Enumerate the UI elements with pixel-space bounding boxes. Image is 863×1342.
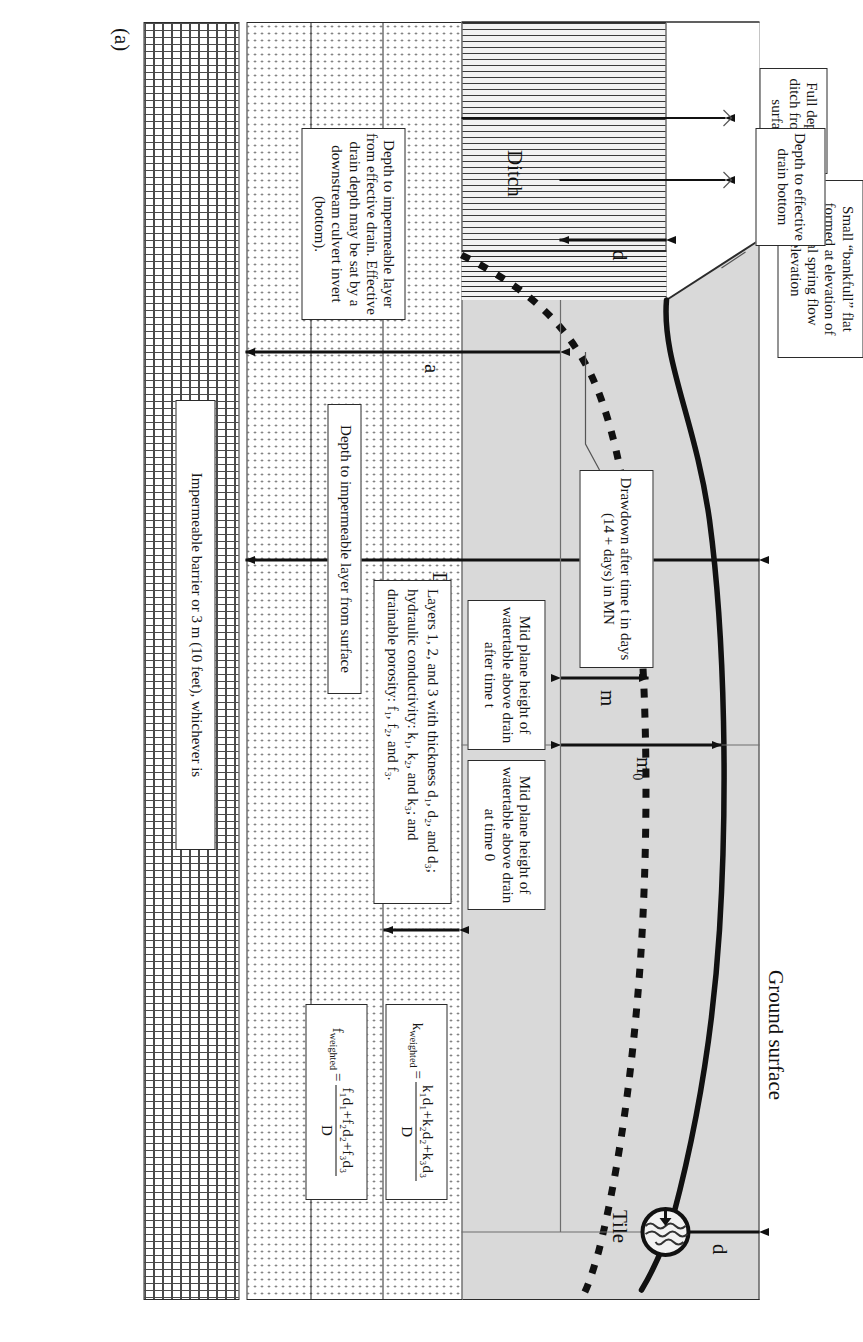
f-weighted-fraction: f₁d₁+f₂d₂+f₃d₃ D (317, 1085, 355, 1177)
callout-depth-imp-drain: Depth to impermeable layer from effectiv… (301, 128, 405, 320)
f-weighted-equals: = (327, 1073, 344, 1081)
d-top-label: d (706, 1244, 731, 1255)
k-weighted-numerator: k₁d₁+k₂d₂+k₃d₃ (416, 1082, 435, 1181)
f-weighted-lhs: fweighted (327, 1028, 345, 1070)
ground-surface-label: Ground surface (762, 970, 787, 1100)
tile-label: Tile (606, 1210, 631, 1243)
callout-depth-effective-drain: Depth to effective drain bottom (755, 128, 825, 246)
d-ditch-label: d (606, 250, 631, 261)
callout-impermeable-barrier: Impermeable barrier or 3 m (10 feet), wh… (175, 400, 215, 850)
f-weighted-denominator: D (317, 1085, 335, 1177)
k-weighted-lhs: kweighted (407, 1023, 425, 1068)
k-weighted-fraction: k₁d₁+k₂d₂+k₃d₃ D (397, 1082, 435, 1181)
callout-drawdown: Drawdown after time t in days (14 + days… (579, 470, 653, 668)
callout-midplane-time-0: Mid plane height of watertable above dra… (467, 760, 545, 910)
f-weighted-numerator: f₁d₁+f₂d₂+f₃d₃ (336, 1085, 355, 1177)
m-label: m (594, 690, 619, 706)
formula-f-weighted: fweighted = f₁d₁+f₂d₂+f₃d₃ D (305, 1004, 367, 1200)
callout-depth-imp-surface: Depth to impermeable layer from surface (327, 404, 361, 694)
k-weighted-denominator: D (397, 1082, 415, 1181)
ditch-label: Ditch (501, 150, 526, 197)
callout-midplane-time-t: Mid plane height of watertable above dra… (467, 600, 545, 750)
formula-k-weighted: kweighted = k₁d₁+k₂d₂+k₃d₃ D (385, 1004, 447, 1200)
callout-layers: Layers 1, 2, and 3 with thickness d₁, d₂… (373, 580, 451, 904)
k-weighted-equals: = (407, 1071, 424, 1079)
m0-label: m0 (629, 757, 655, 780)
a-label: a (418, 364, 443, 373)
panel-label: (a) (108, 28, 133, 51)
